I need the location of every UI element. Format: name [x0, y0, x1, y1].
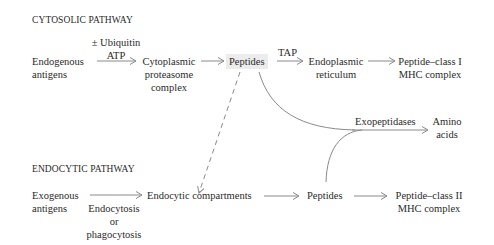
tap-label: TAP: [278, 46, 297, 59]
curve-endo-peptides-to-exopeptidases: [326, 130, 362, 182]
proteasome-label: Cytoplasmic proteasome complex: [134, 55, 204, 94]
proteasome-line-2: proteasome: [134, 68, 204, 81]
er-label: Endoplasmic reticulum: [304, 55, 368, 81]
endocytic-compartments-label: Endocytic compartments: [147, 189, 252, 202]
exopeptidases-label: Exopeptidases: [355, 115, 416, 128]
dashed-arrow-peptides-to-compartments: [199, 72, 240, 193]
source-line-2: antigens: [32, 68, 84, 81]
cytosolic-pathway-header: CYTOSOLIC PATHWAY: [32, 14, 133, 27]
amino-line-1: Amino: [430, 115, 464, 128]
mhc1-label: Peptide–class I MHC complex: [392, 55, 468, 81]
exo-source-line-1: Exogenous: [32, 189, 79, 202]
endocytic-pathway-header: ENDOCYTIC PATHWAY: [32, 163, 135, 176]
er-line-2: reticulum: [304, 68, 368, 81]
phagocytosis-text: phagocytosis: [84, 228, 144, 241]
ubiquitin-text: ± Ubiquitin: [88, 36, 144, 49]
mhc2-line-2: MHC complex: [388, 202, 470, 215]
or-text: or: [84, 215, 144, 228]
endogenous-antigens-label: Endogenous antigens: [32, 55, 84, 81]
endocytic-peptides-label: Peptides: [307, 189, 343, 202]
endocytosis-label: Endocytosis or phagocytosis: [84, 202, 144, 241]
er-line-1: Endoplasmic: [304, 55, 368, 68]
endocytosis-text: Endocytosis: [84, 202, 144, 215]
cytosolic-peptides-label: Peptides: [226, 54, 268, 69]
mhc2-label: Peptide–class II MHC complex: [388, 189, 470, 215]
proteasome-line-1: Cytoplasmic: [134, 55, 204, 68]
amino-acids-label: Amino acids: [430, 115, 464, 141]
mhc1-line-1: Peptide–class I: [392, 55, 468, 68]
amino-line-2: acids: [430, 128, 464, 141]
exogenous-antigens-label: Exogenous antigens: [32, 189, 79, 215]
exo-source-line-2: antigens: [32, 202, 79, 215]
source-line-1: Endogenous: [32, 55, 84, 68]
proteasome-line-3: complex: [134, 81, 204, 94]
mhc1-line-2: MHC complex: [392, 68, 468, 81]
mhc2-line-1: Peptide–class II: [388, 189, 470, 202]
